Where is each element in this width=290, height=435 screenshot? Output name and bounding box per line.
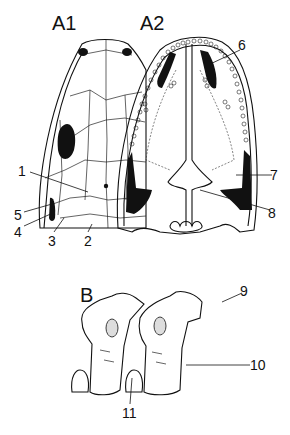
vertebra-left (82, 293, 144, 395)
panel-label-a2: A2 (140, 12, 164, 34)
pineal-foramen (104, 184, 108, 188)
marginal-teeth (130, 39, 248, 146)
orbit (58, 124, 76, 159)
callout-2: 2 (84, 233, 92, 249)
zygapophysis-right (154, 317, 166, 335)
callout-4: 4 (14, 224, 22, 240)
callout-7: 7 (270, 167, 278, 183)
choana-left (157, 52, 176, 88)
nostril-right (122, 48, 132, 56)
skull-ventral-view (117, 37, 257, 234)
callout-1: 1 (18, 163, 26, 179)
otic-notch (49, 198, 55, 221)
zygapophysis-left (106, 319, 118, 337)
callout-9: 9 (240, 283, 248, 299)
subtemporal-fossa-right (220, 150, 252, 210)
vertebrae-lateral-view (72, 291, 202, 394)
callout-5: 5 (14, 207, 22, 223)
choana-right (200, 50, 217, 88)
intercentrum-left (72, 370, 89, 392)
callout-10: 10 (250, 357, 266, 373)
nostril-left (78, 48, 88, 56)
intercentrum-middle (126, 370, 143, 392)
callout-3: 3 (48, 233, 56, 249)
callout-8: 8 (268, 205, 276, 221)
diagram-canvas: A1 A2 B 1 2 3 4 5 6 7 8 9 10 11 (0, 0, 290, 435)
panel-label-a1: A1 (52, 12, 76, 34)
callout-11: 11 (122, 405, 137, 421)
callout-6: 6 (238, 37, 246, 53)
panel-label-b: B (80, 284, 93, 306)
callout-leaders (24, 50, 272, 404)
vertebra-right (139, 291, 202, 394)
